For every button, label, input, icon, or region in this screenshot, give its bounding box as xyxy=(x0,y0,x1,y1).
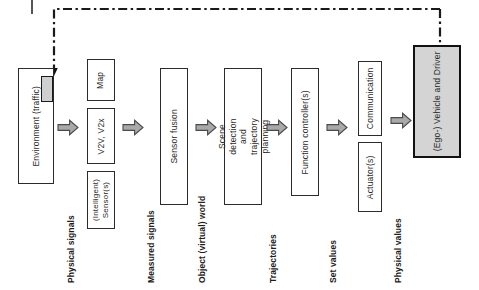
diagram-canvas: Environment (traffic) Physical signals M… xyxy=(0,0,479,290)
environment-connector-stub xyxy=(41,76,53,102)
flow-label-set-values: Set values xyxy=(328,240,338,283)
block-scene-detection-label: Scene detection and trajectory planning xyxy=(216,118,269,155)
block-function-controller-label: Function controller(s) xyxy=(300,90,311,174)
block-sensor-fusion-label: Sensor fusion xyxy=(169,109,180,164)
block-map[interactable]: Map xyxy=(87,59,115,101)
flow-label-physical-signals: Physical signals xyxy=(66,215,76,283)
block-v2v[interactable]: V2V, V2x xyxy=(87,108,115,164)
block-actuators[interactable]: Actuator(s) xyxy=(358,142,382,212)
flow-label-trajectories: Trajectories xyxy=(268,234,278,283)
arrow-object-world xyxy=(195,119,217,136)
flow-label-measured-signals: Measured signals xyxy=(146,210,156,283)
block-v2v-label: V2V, V2x xyxy=(96,118,107,154)
block-function-controller[interactable]: Function controller(s) xyxy=(291,68,319,196)
block-actuators-label: Actuator(s) xyxy=(365,155,376,199)
block-sensors[interactable]: (Intelligent) Sensor(s) xyxy=(87,171,115,229)
arrow-physical-signals xyxy=(57,119,79,136)
block-ego-vehicle-label: (Ego-) Vehicle and Driver xyxy=(432,52,443,152)
block-map-label: Map xyxy=(96,71,107,88)
block-environment-label: Environment (traffic) xyxy=(31,86,42,167)
block-ego-vehicle[interactable]: (Ego-) Vehicle and Driver xyxy=(413,45,461,158)
arrow-measured-signals xyxy=(122,119,144,136)
arrow-trajectories xyxy=(266,119,288,136)
arrow-set-values xyxy=(326,119,348,136)
block-sensors-label: (Intelligent) Sensor(s) xyxy=(91,179,111,221)
block-communication[interactable]: Communication xyxy=(358,61,382,136)
block-sensor-fusion[interactable]: Sensor fusion xyxy=(160,68,188,205)
flow-label-physical-values: Physical values xyxy=(393,218,403,283)
block-communication-label: Communication xyxy=(365,68,376,130)
block-scene-detection[interactable]: Scene detection and trajectory planning xyxy=(224,68,262,205)
flow-label-object-world: Object (virtual) world xyxy=(197,196,207,283)
arrow-physical-values xyxy=(390,112,412,129)
